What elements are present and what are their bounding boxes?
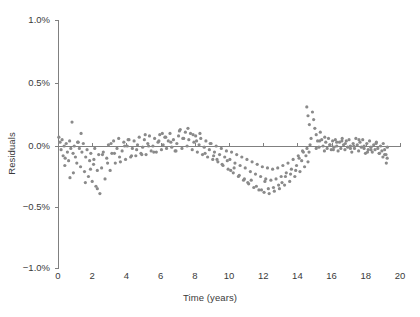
data-point (68, 139, 71, 142)
data-point (72, 171, 75, 174)
data-point (100, 166, 103, 169)
data-point (226, 159, 229, 162)
x-axis-title: Time (years) (0, 292, 420, 303)
data-point (105, 157, 108, 160)
data-point (151, 144, 154, 147)
data-point (131, 147, 134, 150)
data-point (160, 148, 163, 151)
data-point (178, 129, 181, 132)
data-point (362, 147, 365, 150)
data-point (318, 139, 321, 142)
data-point (186, 127, 189, 130)
data-point (326, 147, 329, 150)
data-point (382, 142, 385, 145)
data-point (66, 151, 69, 154)
x-tick-label: 2 (77, 270, 107, 281)
data-point (63, 164, 66, 167)
data-point (162, 143, 165, 146)
data-point (114, 161, 117, 164)
data-point (220, 147, 223, 150)
data-point (340, 139, 343, 142)
data-point (213, 151, 216, 154)
data-point (59, 148, 62, 151)
data-point (269, 179, 272, 182)
data-point (289, 172, 292, 175)
data-point (317, 146, 320, 149)
data-point (195, 139, 198, 142)
data-point (339, 147, 342, 150)
data-point (74, 155, 77, 158)
data-point (357, 149, 360, 152)
data-point (261, 165, 264, 168)
data-point (135, 148, 138, 151)
data-point (346, 146, 349, 149)
data-point (308, 123, 311, 126)
data-point (169, 141, 172, 144)
data-point (181, 137, 184, 140)
data-point (386, 157, 389, 160)
data-point (263, 180, 266, 183)
data-point (250, 179, 253, 182)
data-point (225, 149, 228, 152)
data-point (147, 144, 150, 147)
data-point (283, 183, 286, 186)
data-point (172, 138, 175, 141)
x-tick-label: 20 (385, 270, 415, 281)
data-point (352, 144, 355, 147)
data-point (141, 146, 144, 149)
data-point (380, 149, 383, 152)
data-point (208, 148, 211, 151)
data-point (294, 169, 297, 172)
data-point (58, 141, 61, 144)
x-tick-label: 6 (146, 270, 176, 281)
data-point (244, 166, 247, 169)
data-point (168, 132, 171, 135)
data-point (122, 141, 125, 144)
data-point (369, 148, 372, 151)
data-point (206, 155, 209, 158)
data-point (308, 143, 311, 146)
data-point (92, 163, 95, 166)
data-point (311, 110, 314, 113)
data-point (203, 146, 206, 149)
data-point (356, 143, 359, 146)
data-point (379, 144, 382, 147)
data-point (313, 127, 316, 130)
data-point (293, 175, 296, 178)
x-tick-label: 0 (43, 270, 73, 281)
data-point (385, 161, 388, 164)
data-point (361, 138, 364, 141)
data-point (115, 147, 118, 150)
data-point (335, 141, 338, 144)
data-point (140, 153, 143, 156)
data-point (112, 139, 115, 142)
y-tick-label: 0.0% (0, 140, 50, 151)
y-tick-label: −0.5% (0, 201, 50, 212)
data-point (70, 120, 73, 123)
data-point (239, 164, 242, 167)
data-point (157, 139, 160, 142)
data-point (307, 151, 310, 154)
data-point (280, 181, 283, 184)
data-point (117, 137, 120, 140)
data-point (305, 147, 308, 150)
data-point (144, 133, 147, 136)
data-point (63, 144, 66, 147)
data-points (57, 105, 389, 195)
data-point (218, 153, 221, 156)
data-point (84, 181, 87, 184)
data-point (152, 151, 155, 154)
x-tick-label: 8 (180, 270, 210, 281)
data-point (89, 168, 92, 171)
data-point (238, 174, 241, 177)
data-point (350, 151, 353, 154)
data-point (130, 154, 133, 157)
data-point (274, 177, 277, 180)
data-point (186, 144, 189, 147)
data-point (106, 161, 109, 164)
data-point (174, 149, 177, 152)
data-point (335, 144, 338, 147)
data-point (331, 139, 334, 142)
data-point (143, 138, 146, 141)
data-point (69, 147, 72, 150)
